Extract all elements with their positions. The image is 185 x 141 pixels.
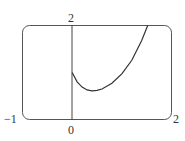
function-curve — [72, 26, 148, 91]
x-max-tick-label: 2 — [173, 113, 179, 125]
y-max-tick-label: 2 — [68, 12, 74, 24]
x-zero-tick-label: 0 — [68, 124, 74, 136]
plot-area — [0, 0, 185, 141]
viewing-window-frame — [23, 26, 172, 120]
x-min-tick-label: −1 — [4, 113, 17, 125]
